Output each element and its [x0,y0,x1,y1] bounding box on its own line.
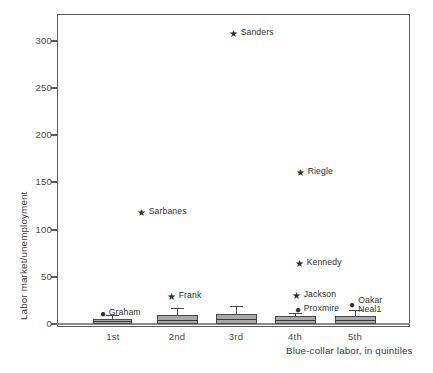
outlier-label-riegle: Riegle [308,166,333,176]
y-tick-label-50: 50 [41,271,52,282]
y-axis-title: Labor market/unemployment [18,192,29,320]
y-tick-label-100: 100 [36,224,52,235]
star-icon: ★ [137,208,146,218]
x-tick-label-3rd: 3rd [211,331,261,342]
x-tick-label-2nd: 2nd [152,331,202,342]
outlier-oakar-neal1: ●OakarNeal1 [349,296,382,314]
whisker-cap-upper-2nd [171,308,184,309]
median-1st [93,321,132,322]
outlier-proxmire: ●Proxmire [295,304,339,315]
outlier-label-jackson: Jackson [304,289,337,299]
y-tick-label-0: 0 [47,318,52,329]
outlier-label-frank: Frank [179,290,202,300]
outlier-kennedy: ★Kennedy [295,258,342,269]
outlier-sarbanes: ★Sarbanes [137,207,187,218]
outlier-riegle: ★Riegle [296,167,333,178]
star-icon: ★ [292,291,301,301]
dot-icon: ● [349,300,355,310]
median-3rd [216,319,257,320]
median-2nd [157,320,198,321]
median-5th [335,320,376,321]
outlier-label-sanders: Sanders [241,27,274,37]
y-tick-label-150: 150 [36,176,52,187]
x-tick-label-1st: 1st [88,331,138,342]
outlier-sanders: ★Sanders [229,28,274,39]
outlier-label-kennedy: Kennedy [307,257,342,267]
figure-box-plot: Labor market/unemployment 0 50 100 150 2… [0,0,433,373]
median-4th [275,320,316,321]
outlier-label-oakar-neal1: OakarNeal1 [358,296,382,314]
star-icon: ★ [295,259,304,269]
outlier-label-sarbanes: Sarbanes [149,206,187,216]
outlier-frank: ★Frank [167,291,201,302]
x-tick-label-4th: 4th [270,331,320,342]
dot-icon: ● [100,309,106,319]
x-axis-title: Blue-collar labor, in quintiles [286,345,413,356]
outlier-graham: ●Graham [100,308,141,319]
whisker-cap-upper-3rd [230,306,243,307]
y-tick-label-200: 200 [36,129,52,140]
plot-frame [57,14,410,327]
star-icon: ★ [229,29,238,39]
dot-icon: ● [295,305,301,315]
y-tick-label-300: 300 [36,35,52,46]
outlier-label-graham: Graham [109,307,141,317]
star-icon: ★ [167,292,176,302]
y-tick-label-250: 250 [36,82,52,93]
outlier-label-proxmire: Proxmire [304,303,340,313]
star-icon: ★ [296,168,305,178]
x-tick-label-5th: 5th [330,331,380,342]
outlier-jackson: ★Jackson [292,290,336,301]
